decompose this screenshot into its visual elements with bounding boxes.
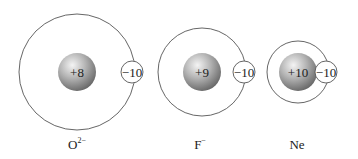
fluoride-charge-superscript: − (201, 136, 206, 145)
fluoride-electron-charge: −10 (234, 65, 254, 80)
neon-symbol: Ne (289, 137, 304, 152)
oxide-ion-model: +8 −10 (19, 14, 143, 130)
neon-atom-model: +10 −10 (267, 41, 337, 103)
neon-electron-charge: −10 (316, 65, 336, 80)
neon-nuclear-charge: +10 (288, 65, 308, 80)
fluoride-ion-model: +9 −10 (158, 28, 255, 116)
oxide-electron-charge: −10 (122, 65, 142, 80)
oxide-charge-superscript: 2− (77, 136, 86, 145)
fluoride-nuclear-charge: +9 (195, 65, 209, 80)
neon-label: Ne (277, 136, 317, 153)
fluoride-label: F− (180, 136, 220, 153)
oxide-label: O2− (57, 136, 97, 153)
oxide-nuclear-charge: +8 (70, 65, 84, 80)
